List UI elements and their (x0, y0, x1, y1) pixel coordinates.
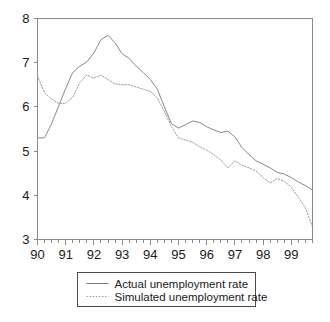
x-tick-label: 93 (115, 247, 129, 262)
x-axis-tick-marks (38, 240, 313, 245)
x-axis-tick-labels: 90919293949596979899 (30, 247, 298, 262)
y-tick-label: 7 (22, 55, 29, 70)
y-tick-label: 3 (22, 232, 29, 247)
y-axis-tick-marks (34, 19, 38, 240)
y-tick-label: 8 (22, 11, 29, 26)
chart-legend: Actual unemployment rate Simulated unemp… (78, 273, 268, 307)
x-tick-label: 98 (256, 247, 270, 262)
unemployment-rate-chart: 876543 90919293949596979899 Actual unemp… (0, 0, 330, 322)
series-line-simulated (38, 75, 313, 227)
x-tick-label: 94 (143, 247, 157, 262)
series-line-actual (38, 35, 313, 190)
x-tick-label: 97 (228, 247, 242, 262)
x-tick-label: 92 (87, 247, 101, 262)
x-tick-label: 91 (58, 247, 72, 262)
x-tick-label: 96 (199, 247, 213, 262)
y-tick-label: 6 (22, 99, 29, 114)
y-axis-tick-labels: 876543 (22, 11, 29, 247)
x-tick-label: 99 (284, 247, 298, 262)
x-tick-label: 95 (171, 247, 185, 262)
legend-label-actual: Actual unemployment rate (115, 278, 249, 290)
y-tick-label: 4 (22, 188, 29, 203)
chart-canvas: 876543 90919293949596979899 Actual unemp… (0, 0, 330, 322)
legend-label-simulated: Simulated unemployment rate (115, 291, 268, 303)
y-tick-label: 5 (22, 144, 29, 159)
x-tick-label: 90 (30, 247, 44, 262)
plot-axis-frame (38, 19, 313, 240)
